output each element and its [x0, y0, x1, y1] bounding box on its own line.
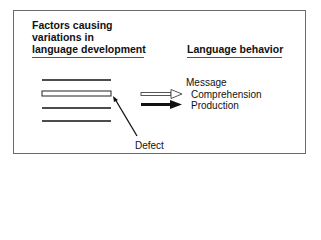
factor-bar-defective	[42, 91, 111, 96]
comprehension-arrow-icon	[141, 90, 182, 99]
production-arrow-icon	[141, 100, 182, 109]
message-label: Message	[186, 77, 227, 89]
production-label: Production	[191, 100, 239, 112]
defect-pointer-arrow	[113, 96, 137, 136]
defect-label: Defect	[135, 140, 164, 152]
